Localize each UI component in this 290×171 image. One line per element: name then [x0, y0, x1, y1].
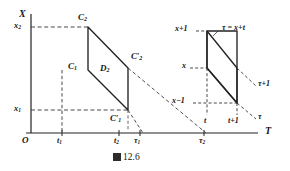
dashed-extension-c1prime	[128, 110, 143, 133]
right-label-t-plus-1: t+1	[228, 117, 239, 125]
x-tick-t1-sub: 1	[59, 139, 62, 145]
vertex-C1prime-sub: 1	[118, 117, 121, 123]
right-parallelogram	[207, 31, 237, 103]
annotation-tau: τ	[258, 113, 262, 121]
region-label-D2: D2	[100, 64, 109, 74]
dashed-extension-c2prime	[128, 68, 206, 133]
right-label-x-minus-1: x−1	[172, 97, 185, 105]
y-tick-x2: x2	[14, 21, 21, 31]
vertex-C1-sub: 1	[74, 65, 77, 71]
right-label-t: t	[204, 117, 206, 125]
vertex-label-C1: C1	[68, 62, 77, 72]
x-tick-t2-sub: 2	[116, 139, 119, 145]
figure-canvas	[0, 0, 290, 171]
vertex-label-C1-prime: C′1	[110, 114, 121, 124]
annotation-tau-equals-x-plus-t: τ = x+t	[222, 24, 245, 32]
ray-tau-plus-1	[237, 68, 256, 86]
x-tick-tau2: τ2	[199, 137, 205, 145]
right-slant-top-edge	[207, 31, 237, 68]
y-tick-x1-sub: 1	[18, 107, 21, 113]
figure-12-6: X T O x2 x1 t1 t2 τ1 τ2 C2 C′2 C1 C′1 D2…	[0, 0, 290, 171]
region-D2-sub: 2	[107, 67, 110, 73]
x-tick-t2: t2	[114, 137, 119, 145]
vertex-label-C2-prime: C′2	[131, 52, 142, 62]
y-tick-x2-sub: 2	[18, 24, 21, 30]
right-label-x-plus-1: x+1	[175, 25, 188, 33]
x-tick-t1: t1	[57, 137, 62, 145]
annotation-tau-plus-1: τ+1	[258, 80, 270, 88]
figure-caption-number: 12.6	[123, 152, 140, 162]
ray-tau	[237, 103, 256, 119]
x-tick-tau1: τ1	[134, 137, 140, 145]
right-slant-bottom-edge	[207, 68, 237, 103]
origin-label: O	[22, 136, 29, 145]
x-tick-tau2-sub: 2	[203, 139, 206, 145]
right-label-x: x	[182, 62, 186, 70]
left-x-axis-label: T	[265, 126, 271, 136]
x-tick-tau1-sub: 1	[138, 139, 141, 145]
vertex-C2prime-sub: 2	[139, 55, 142, 61]
y-tick-x1: x1	[14, 104, 21, 114]
figure-caption: 12.6	[113, 152, 140, 162]
figure-square-glyph	[113, 153, 121, 161]
vertex-label-C2: C2	[78, 13, 87, 23]
leader-tau-equals-x-plus-t	[213, 31, 218, 36]
left-y-axis-label: X	[19, 9, 26, 19]
vertex-C2-sub: 2	[84, 16, 87, 22]
